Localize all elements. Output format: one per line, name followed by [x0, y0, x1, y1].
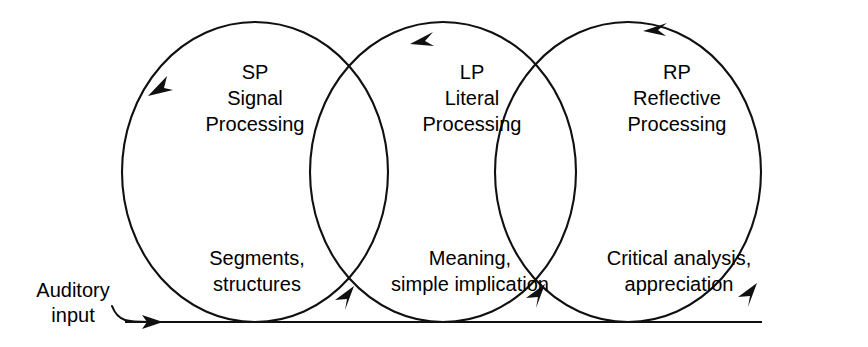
lp-output-line2: simple implication [391, 273, 549, 295]
auditory-input-line1: Auditory [36, 279, 109, 301]
processing-cycle-diagram: SP Signal Processing Segments, structure… [0, 0, 868, 347]
label-block-lp: LP Literal Processing Meaning, simple im… [391, 61, 549, 295]
input-hook-curve [112, 306, 150, 322]
auditory-input-line2: input [51, 304, 95, 326]
arrowhead-rp-inflow [738, 283, 757, 307]
lp-output-line1: Meaning, [429, 247, 511, 269]
lp-name-line1: Literal [445, 87, 499, 109]
diagram-canvas: SP Signal Processing Segments, structure… [0, 0, 868, 347]
auditory-input-flow [112, 306, 762, 329]
rp-output-line1: Critical analysis, [607, 247, 751, 269]
label-block-auditory-input: Auditory input [36, 279, 109, 326]
rp-abbrev: RP [663, 61, 691, 83]
label-block-rp: RP Reflective Processing Critical analys… [607, 61, 751, 295]
lp-name-line2: Processing [423, 113, 522, 135]
sp-name-line1: Signal [227, 87, 283, 109]
sp-abbrev: SP [242, 61, 269, 83]
rp-name-line1: Reflective [633, 87, 721, 109]
label-block-sp: SP Signal Processing Segments, structure… [206, 61, 305, 295]
sp-output-line2: structures [213, 273, 301, 295]
sp-output-line1: Segments, [209, 247, 305, 269]
arrowhead-lp [410, 32, 434, 46]
lp-abbrev: LP [460, 61, 484, 83]
rp-name-line2: Processing [628, 113, 727, 135]
rp-output-line2: appreciation [625, 273, 734, 295]
sp-name-line2: Processing [206, 113, 305, 135]
